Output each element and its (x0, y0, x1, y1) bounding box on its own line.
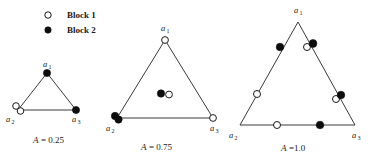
vertex-label-a3: a 3 (352, 130, 361, 141)
data-point-block-2 (157, 90, 164, 97)
open-circle-icon (45, 12, 51, 18)
legend-item-label: Block 1 (67, 10, 96, 20)
vertex-label-a1: a 1 (294, 5, 303, 16)
vertex-label-a3: a 3 (210, 123, 219, 134)
vertex-label-a3-text: a (72, 114, 76, 124)
data-point-block-1 (210, 115, 217, 122)
data-point-block-2 (309, 40, 317, 48)
caption-value: = 0.25 (41, 135, 65, 145)
triangle-outline (18, 73, 76, 110)
vertex-label-a1-text: a (43, 59, 47, 69)
data-point-block-2 (72, 106, 79, 113)
vertex-label-a2: a 2 (6, 114, 15, 125)
vertex-label-a1: a 1 (161, 23, 170, 34)
vertex-label-a2: a 2 (229, 130, 238, 141)
data-point-block-2 (115, 116, 122, 123)
data-point-block-1 (166, 91, 173, 98)
vertex-label-a3-text: a (352, 130, 356, 140)
vertex-label-a2-text: a (229, 130, 233, 140)
vertex-label-a2-text: a (6, 114, 10, 124)
data-point-block-2 (316, 121, 324, 129)
data-points (13, 69, 80, 114)
caption-symbol: A (140, 142, 147, 152)
caption-symbol: A (280, 143, 287, 153)
vertex-label-a2-subscript: 2 (12, 119, 15, 125)
vertex-label-a2-subscript: 2 (235, 135, 238, 141)
vertex-label-a3-text: a (210, 123, 214, 133)
panel-caption: A =1.0 (280, 143, 306, 153)
caption-symbol: A (32, 135, 39, 145)
vertex-label-a2: a 2 (106, 123, 115, 134)
panel-caption: A = 0.25 (32, 135, 65, 145)
vertex-label-a1-subscript: 1 (167, 28, 170, 34)
data-point-block-2 (337, 91, 345, 99)
vertex-label-a1-subscript: 1 (300, 10, 303, 16)
vertex-label-a2-text: a (106, 123, 110, 133)
legend: Block 1 Block 2 (45, 10, 96, 35)
vertex-label-a3: a 3 (72, 114, 81, 125)
vertex-label-a3-subscript: 3 (78, 119, 81, 125)
legend-item-block-2: Block 2 (45, 25, 96, 35)
data-point-block-1 (254, 91, 261, 98)
vertex-label-a1: a 1 (43, 59, 52, 70)
data-point-block-1 (17, 108, 24, 115)
filled-circle-icon (45, 27, 51, 33)
vertex-label-a2-subscript: 2 (112, 128, 115, 134)
triangle-outline (240, 22, 355, 125)
vertex-label-a3-subscript: 3 (358, 135, 361, 141)
panel-a-025: a 1 a 2 a 3 A = 0.25 (6, 59, 81, 145)
panel-caption: A = 0.75 (140, 142, 173, 152)
vertex-label-a1-text: a (161, 23, 165, 33)
legend-item-label: Block 2 (67, 25, 96, 35)
caption-value: =1.0 (289, 143, 306, 153)
data-point-block-2 (43, 69, 50, 76)
vertex-label-a1-text: a (294, 5, 298, 15)
vertex-label-a1-subscript: 1 (49, 64, 52, 70)
data-point-block-2 (276, 43, 284, 51)
panel-a-100: a 1 a 2 a 3 A =1.0 (229, 5, 361, 153)
data-point-block-1 (162, 37, 169, 44)
data-point-block-1 (274, 122, 281, 129)
panel-a-075: a 1 a 2 a 3 A = 0.75 (106, 23, 219, 152)
data-points (254, 40, 345, 129)
data-points (111, 37, 216, 124)
legend-item-block-1: Block 1 (45, 10, 96, 20)
caption-value: = 0.75 (149, 142, 173, 152)
ternary-diagram-figure: Block 1 Block 2 a 1 a 2 a 3 (0, 0, 376, 155)
vertex-label-a3-subscript: 3 (216, 128, 219, 134)
triangle-outline (117, 40, 213, 118)
